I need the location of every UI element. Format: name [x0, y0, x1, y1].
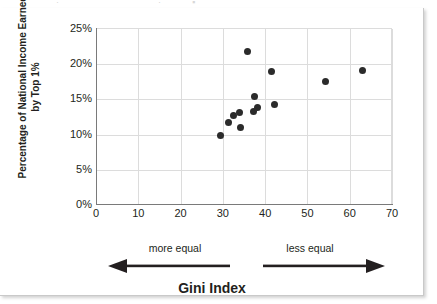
arrow-right-icon [263, 258, 385, 274]
data-point [359, 67, 366, 74]
x-tick-label: 70 [377, 208, 407, 219]
data-point [225, 119, 232, 126]
sliver-fragment: ▪ [192, 0, 195, 7]
y-tick-label: 15% [52, 93, 92, 104]
x-tick-label: 0 [81, 208, 111, 219]
sliver-fragment: · [56, 0, 59, 7]
gridline-vertical [307, 29, 308, 204]
data-point [244, 48, 251, 55]
data-point [271, 101, 278, 108]
y-axis-title: Percentage of National Income Earned by … [16, 0, 42, 182]
data-point [217, 132, 224, 139]
data-point [236, 109, 243, 116]
data-point [268, 68, 275, 75]
x-axis-tick-labels: 010203040506070 [96, 208, 393, 222]
gridline-vertical [181, 29, 182, 204]
data-point [237, 124, 244, 131]
gridline-vertical [265, 29, 266, 204]
gridline-horizontal [96, 99, 391, 100]
data-point [254, 104, 261, 111]
gridline-vertical [223, 29, 224, 204]
x-tick-label: 60 [335, 208, 365, 219]
y-axis-line [96, 28, 97, 205]
annotation-more-equal: more equal [120, 242, 230, 254]
y-tick-label: 10% [52, 129, 92, 140]
annotation-less-equal: less equal [255, 242, 365, 254]
gridline-horizontal [96, 170, 391, 171]
y-tick-label: 5% [52, 164, 92, 175]
gridline-vertical [138, 29, 139, 204]
x-axis-line [96, 204, 393, 205]
gridline-vertical [350, 29, 351, 204]
y-tick-label: 20% [52, 58, 92, 69]
x-tick-label: 20 [166, 208, 196, 219]
plot-area [96, 28, 392, 204]
x-tick-label: 50 [292, 208, 322, 219]
gridline-horizontal [96, 135, 391, 136]
gridline-horizontal [96, 64, 391, 65]
figure-card: Percentage of National Income Earned by … [0, 8, 424, 296]
x-axis-title: Gini Index [0, 280, 424, 296]
x-tick-label: 40 [250, 208, 280, 219]
sliver-fragment: · [158, 0, 161, 7]
cropped-text-sliver: · · ▪ [0, 0, 437, 7]
x-tick-label: 10 [123, 208, 153, 219]
y-axis-tick-labels: 0%5%10%15%20%25% [48, 28, 92, 205]
x-tick-label: 30 [208, 208, 238, 219]
data-point [322, 78, 329, 85]
arrow-left-icon [108, 258, 230, 274]
y-tick-label: 25% [52, 23, 92, 34]
gridline-vertical [392, 29, 393, 204]
